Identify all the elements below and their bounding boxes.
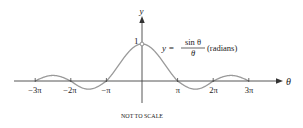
y-axis-label: y bbox=[139, 6, 144, 16]
function-formula: y = sin θ θ (radians) bbox=[161, 37, 237, 58]
x-tick-label-neg3pi: −3π bbox=[28, 85, 42, 95]
formula-denominator: θ bbox=[191, 48, 195, 58]
sinc-function-graph: θ y 1 −3π −2π −π π 2π 3π y = sin θ θ (ra… bbox=[0, 0, 303, 128]
formula-numerator: sin θ bbox=[185, 37, 201, 47]
formula-note: (radians) bbox=[207, 43, 237, 53]
x-tick-label-3pi: 3π bbox=[245, 85, 254, 95]
x-tick-label-neg2pi: −2π bbox=[63, 85, 77, 95]
x-tick-label-negpi: −π bbox=[101, 85, 111, 95]
x-axis-label: θ bbox=[286, 76, 291, 87]
y-axis-arrow-icon bbox=[139, 16, 144, 23]
open-point-marker bbox=[140, 42, 144, 46]
x-tick-label-pi: π bbox=[176, 85, 181, 95]
x-tick-label-2pi: 2π bbox=[209, 85, 218, 95]
not-to-scale-caption: NOT TO SCALE bbox=[121, 113, 163, 119]
y-tick-label-1: 1 bbox=[134, 36, 139, 46]
x-axis-arrow-icon bbox=[276, 78, 283, 83]
formula-lhs: y = bbox=[161, 43, 174, 53]
